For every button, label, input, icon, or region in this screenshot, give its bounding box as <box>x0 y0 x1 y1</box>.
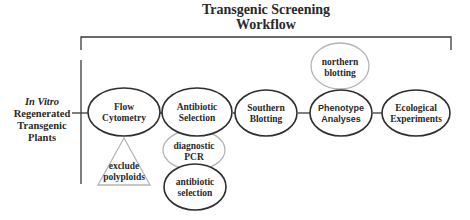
step-phenotype-analyses: Phenotype Analyses <box>310 90 372 136</box>
substep-label-line-1: northern <box>322 57 359 67</box>
ellipse-shape <box>88 88 160 136</box>
substep-label-line-2: polyploids <box>103 172 145 182</box>
source-label: In Vitro Regenerated Transgenic Plants <box>14 96 71 143</box>
source-line-3: Transgenic <box>17 120 67 131</box>
step-label-line-1: Antibiotic <box>177 102 218 112</box>
diagram-title: Transgenic Screening Workflow <box>202 2 330 32</box>
step-label-line-2: Selection <box>179 113 216 123</box>
step-label-line-1: Phenotype <box>318 103 364 113</box>
step-label-line-1: Flow <box>114 102 134 112</box>
step-label-line-2: Cytometry <box>102 113 146 123</box>
substep-label-line-1: diagnostic <box>173 141 214 151</box>
substep-exclude-polyploids: exclude polyploids <box>98 138 150 185</box>
substep-label-line-1: antibiotic <box>176 177 215 187</box>
ellipse-shape <box>310 90 372 136</box>
substep-label-line-2: selection <box>178 188 214 198</box>
step-flow-cytometry: Flow Cytometry <box>88 88 160 136</box>
substep-antibiotic-selection: antibiotic selection <box>164 164 226 210</box>
ellipse-shape <box>382 90 450 136</box>
title-line-1: Transgenic Screening <box>202 2 330 17</box>
substep-label-line-2: PCR <box>184 152 204 162</box>
bracket-top-line <box>81 37 451 50</box>
step-antibiotic-selection: Antibiotic Selection <box>162 88 232 136</box>
ellipse-shape <box>164 164 226 210</box>
source-line-2: Regenerated <box>14 108 71 119</box>
workflow-diagram: Transgenic Screening Workflow In Vitro R… <box>0 0 470 220</box>
step-label-line-2: Experiments <box>390 114 442 124</box>
step-label-line-2: Blotting <box>250 114 283 124</box>
step-label-line-2: Analyses <box>321 114 361 124</box>
step-ecological-experiments: Ecological Experiments <box>382 90 450 136</box>
source-line-1: In Vitro <box>24 96 59 107</box>
substep-label-line-1: exclude <box>109 161 140 171</box>
ellipse-shape <box>235 90 297 136</box>
step-label-line-1: Ecological <box>395 103 437 113</box>
substep-label-line-2: blotting <box>324 68 356 78</box>
step-southern-blotting: Southern Blotting <box>235 90 297 136</box>
substep-northern-blotting: northern blotting <box>311 43 369 89</box>
source-line-4: Plants <box>28 132 56 143</box>
title-line-2: Workflow <box>236 17 297 32</box>
step-label-line-1: Southern <box>247 103 285 113</box>
ellipse-shape <box>162 88 232 136</box>
